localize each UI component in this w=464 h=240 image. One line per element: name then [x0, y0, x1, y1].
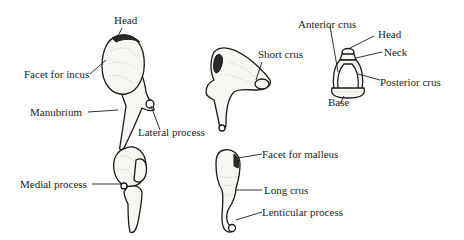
label-lenticular-process: Lenticular process — [262, 206, 343, 218]
leader-manubrium — [88, 110, 118, 112]
leader-facet-for-malleus — [238, 154, 262, 158]
stapes-figure — [332, 49, 365, 99]
label-manubrium: Manubrium — [30, 106, 82, 118]
incus-lateral-figure — [206, 48, 270, 131]
label-medial-process: Medial process — [20, 178, 87, 190]
label-long-crus: Long crus — [264, 184, 308, 196]
label-stapes-head: Head — [378, 28, 401, 40]
ossicles-diagram: Head Facet for incus Manubrium Lateral p… — [0, 0, 464, 240]
label-facet-for-incus: Facet for incus — [24, 68, 89, 80]
label-lateral-process: Lateral process — [138, 126, 205, 138]
leader-neck — [356, 52, 382, 58]
label-malleus-head: Head — [114, 14, 137, 26]
label-anterior-crus: Anterior crus — [298, 18, 356, 30]
leader-lenticular-process — [236, 212, 262, 220]
leader-anterior-crus — [330, 26, 338, 72]
label-posterior-crus: Posterior crus — [380, 76, 441, 88]
label-neck: Neck — [384, 46, 407, 58]
malleus-medial-figure — [114, 147, 147, 233]
label-facet-for-malleus: Facet for malleus — [262, 148, 338, 160]
label-short-crus: Short crus — [258, 48, 303, 60]
label-base: Base — [328, 96, 349, 108]
leader-head-stapes — [350, 36, 374, 48]
